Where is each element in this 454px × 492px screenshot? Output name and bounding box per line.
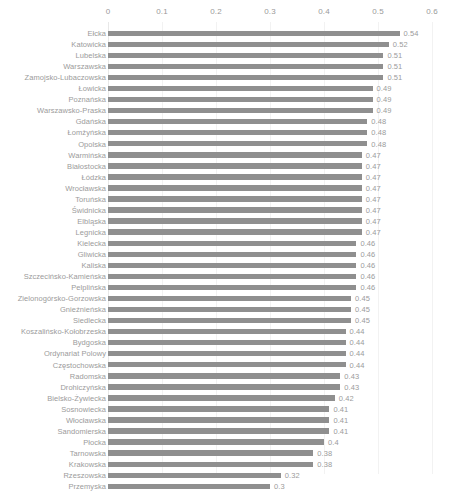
bar (108, 31, 400, 36)
bar (108, 75, 383, 80)
bar (108, 318, 351, 323)
bar (108, 373, 340, 378)
category-label: Pelplińska (71, 282, 106, 293)
bar (108, 285, 356, 290)
bar (108, 340, 346, 345)
bar-row: Legnicka0.47 (0, 227, 454, 238)
bar-row: Radomska0.43 (0, 371, 454, 382)
bar (108, 64, 383, 69)
bar (108, 174, 362, 179)
category-label: Kielecka (77, 238, 106, 249)
bar-value-label: 0.51 (387, 50, 402, 61)
category-label: Krakowska (69, 459, 106, 470)
bar-row: Białostocka0.47 (0, 161, 454, 172)
bar-value-label: 0.41 (333, 404, 348, 415)
bar-row: Łódzka0.47 (0, 172, 454, 183)
category-label: Łowicka (79, 83, 106, 94)
x-axis-tick-label: 0.5 (372, 7, 384, 16)
x-axis-tick-label: 0.6 (426, 7, 438, 16)
bar (108, 53, 383, 58)
category-label: Wrocławska (65, 183, 106, 194)
bar-row: Gnieźnieńska0.45 (0, 304, 454, 315)
bar-value-label: 0.47 (366, 194, 381, 205)
bar (108, 86, 373, 91)
category-label: Gliwicka (78, 249, 106, 260)
bar (108, 185, 362, 190)
bar (108, 119, 367, 124)
category-label: Łódzka (82, 172, 107, 183)
bar-row: Kielecka0.46 (0, 238, 454, 249)
bar-row: Łomżyńska0.48 (0, 127, 454, 138)
bar-row: Ełcka0.54 (0, 28, 454, 39)
category-label: Drohiczyńska (60, 382, 106, 393)
bar-row: Szczecińsko-Kamieńska0.46 (0, 271, 454, 282)
bar-value-label: 0.32 (285, 470, 300, 481)
category-label: Ordynariat Polowy (44, 348, 106, 359)
bar-row: Drohiczyńska0.43 (0, 382, 454, 393)
bar-row: Siedlecka0.45 (0, 315, 454, 326)
bar-value-label: 0.51 (387, 72, 402, 83)
category-label: Koszalińsko-Kołobrzeska (21, 326, 106, 337)
bar-row: Sosnowiecka0.41 (0, 404, 454, 415)
category-label: Szczecińsko-Kamieńska (24, 271, 106, 282)
category-label: Gnieźnieńska (60, 304, 106, 315)
category-label: Zielonogórsko-Gorzowska (18, 293, 106, 304)
category-label: Przemyska (68, 481, 106, 492)
category-label: Rzeszowska (63, 470, 106, 481)
bar-row: Bielsko-Żywiecka0.42 (0, 393, 454, 404)
bar-row: Warmińska0.47 (0, 150, 454, 161)
category-label: Katowicka (71, 39, 106, 50)
bar (108, 417, 329, 422)
category-label: Płocka (83, 437, 106, 448)
bar-row: Zielonogórsko-Gorzowska0.45 (0, 293, 454, 304)
bar-value-label: 0.48 (371, 139, 386, 150)
bar-row: Gliwicka0.46 (0, 249, 454, 260)
bar-row: Płocka0.4 (0, 437, 454, 448)
bar-value-label: 0.48 (371, 116, 386, 127)
bar-row: Krakowska0.38 (0, 459, 454, 470)
bar-row: Pelplińska0.46 (0, 282, 454, 293)
bar (108, 263, 356, 268)
bar (108, 252, 356, 257)
category-label: Tarnowska (70, 448, 106, 459)
bar-value-label: 0.38 (317, 448, 332, 459)
bar-row: Rzeszowska0.32 (0, 470, 454, 481)
bar (108, 274, 356, 279)
bar-row: Lubelska0.51 (0, 50, 454, 61)
bar-row: Ordynariat Polowy0.44 (0, 348, 454, 359)
category-label: Włocławska (66, 415, 106, 426)
bar-row: Katowicka0.52 (0, 39, 454, 50)
category-label: Elbląska (77, 216, 106, 227)
bar-value-label: 0.43 (344, 382, 359, 393)
bar (108, 229, 362, 234)
bar-value-label: 0.47 (366, 161, 381, 172)
bar (108, 351, 346, 356)
bar-row: Toruńska0.47 (0, 194, 454, 205)
bar (108, 97, 373, 102)
category-label: Toruńska (75, 194, 106, 205)
bar-value-label: 0.49 (377, 105, 392, 116)
category-label: Bydgoska (73, 337, 106, 348)
bar-value-label: 0.46 (360, 249, 375, 260)
bar-value-label: 0.46 (360, 260, 375, 271)
bar (108, 108, 373, 113)
category-label: Ełcka (87, 28, 106, 39)
category-label: Białostocka (67, 161, 106, 172)
bar-value-label: 0.44 (350, 337, 365, 348)
bar-value-label: 0.44 (350, 348, 365, 359)
bar-row: Włocławska0.41 (0, 415, 454, 426)
bar (108, 473, 281, 478)
bar-value-label: 0.48 (371, 127, 386, 138)
category-label: Siedlecka (73, 315, 106, 326)
category-label: Zamojsko-Lubaczowska (25, 72, 106, 83)
bar-value-label: 0.42 (339, 393, 354, 404)
bar (108, 152, 362, 157)
bar-row: Poznańska0.49 (0, 94, 454, 105)
category-label: Warszawska (63, 61, 106, 72)
bar-value-label: 0.4 (328, 437, 339, 448)
bar-value-label: 0.47 (366, 205, 381, 216)
bar-value-label: 0.45 (355, 293, 370, 304)
bar-value-label: 0.45 (355, 304, 370, 315)
category-label: Kaliska (81, 260, 106, 271)
bar-row: Przemyska0.3 (0, 481, 454, 492)
